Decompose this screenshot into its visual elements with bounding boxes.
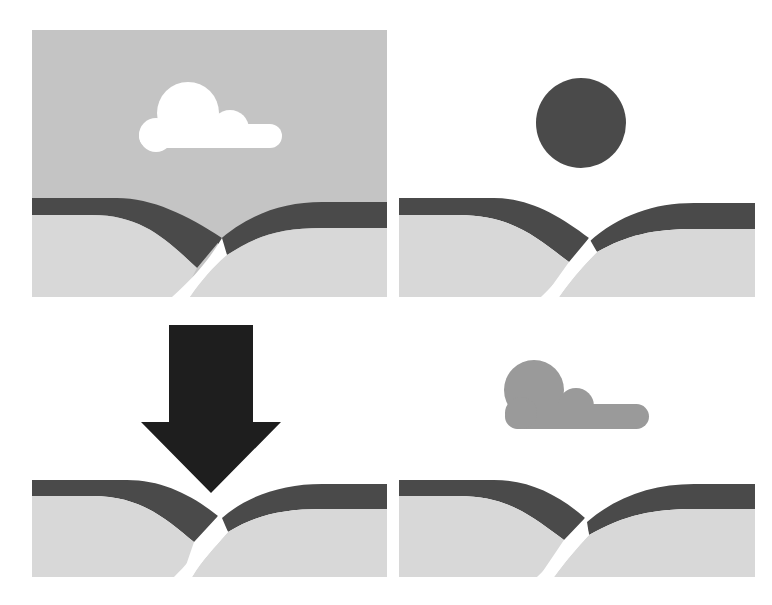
panel-clear-grey-cloud: Clear sky with grey cloud over hills [399, 310, 755, 577]
sun-icon [536, 78, 626, 168]
landscape-illustration [399, 310, 755, 577]
panel-clear-sun: Clear sky with dark sun over hills [399, 30, 755, 297]
landscape-illustration [32, 310, 387, 577]
landscape-illustration [32, 30, 387, 297]
panel-down-arrow: Large downward arrow pointing at the gap… [32, 310, 387, 577]
panel-overcast-white-cloud: Grey sky with white cloud over hills [32, 30, 387, 297]
landscape-illustration [399, 30, 755, 297]
